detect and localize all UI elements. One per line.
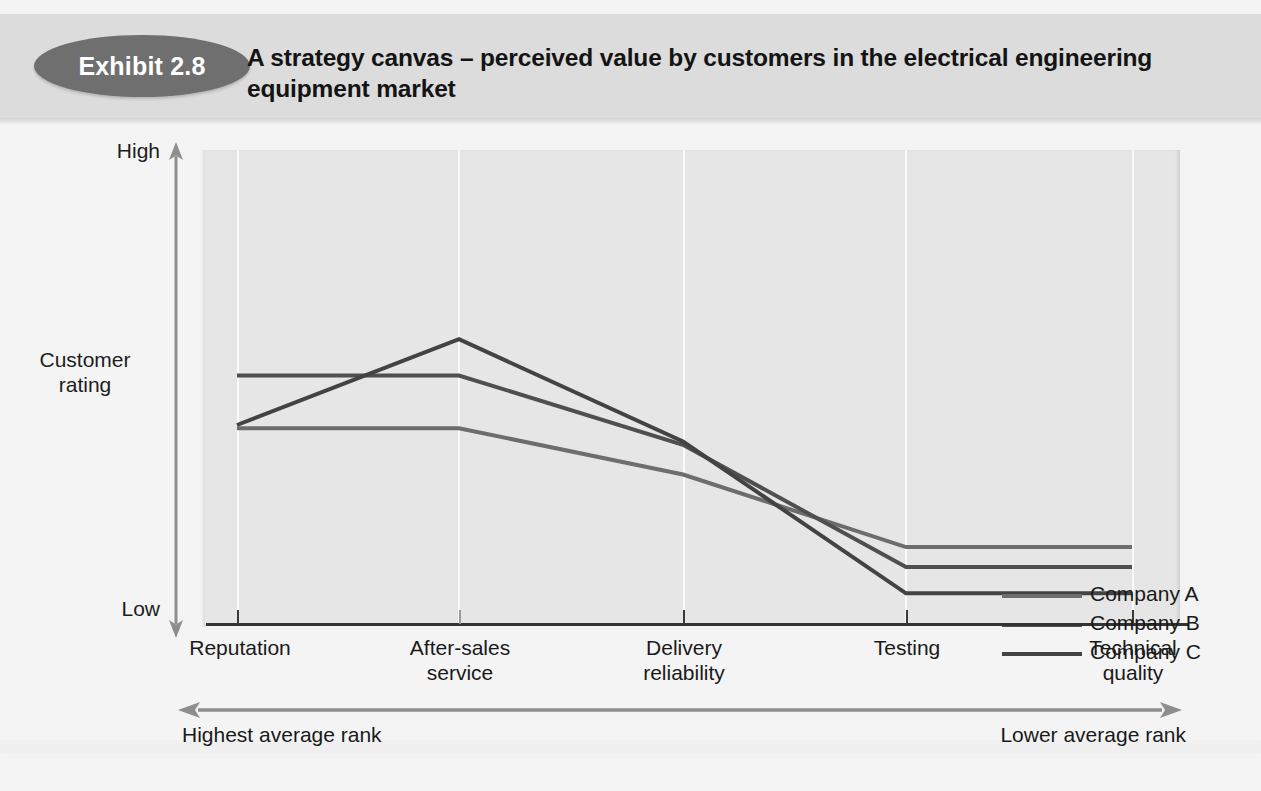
x-label-delivery-reliability: Deliveryreliability: [643, 635, 725, 685]
exhibit-title: A strategy canvas – perceived value by c…: [247, 42, 1207, 104]
x-tick-reputation: [237, 610, 239, 624]
x-tick-after-sales-service: [459, 610, 461, 624]
x-tick-delivery-reliability: [683, 610, 685, 624]
x-label-testing: Testing: [874, 635, 941, 660]
rank-left-label: Highest average rank: [182, 723, 382, 747]
legend-item-company-c: Company C: [1090, 640, 1201, 669]
legend-item-company-a: Company A: [1090, 582, 1201, 611]
x-tick-testing: [906, 610, 908, 624]
x-label-reputation: Reputation: [189, 635, 291, 660]
series-line-company-b: [237, 376, 1132, 567]
rank-direction-arrow-icon: [178, 701, 1182, 719]
rank-right-label: Lower average rank: [1000, 723, 1186, 747]
legend-item-company-b: Company B: [1090, 611, 1201, 640]
exhibit-header-band: Exhibit 2.8 A strategy canvas – perceive…: [0, 14, 1261, 118]
legend-label-company-b: Company B: [1090, 611, 1200, 634]
legend-label-company-c: Company C: [1090, 640, 1201, 663]
exhibit-page: Exhibit 2.8 A strategy canvas – perceive…: [0, 0, 1261, 791]
legend: Company A Company B Company C: [1090, 582, 1201, 669]
strategy-canvas-chart: High Low Customerrating Reputation After…: [0, 118, 1261, 791]
legend-label-company-a: Company A: [1090, 582, 1199, 605]
x-axis-line: [206, 623, 1188, 626]
exhibit-number-badge: Exhibit 2.8: [34, 35, 250, 97]
x-label-after-sales-service: After-salesservice: [410, 635, 510, 685]
series-lines: [0, 118, 1261, 791]
